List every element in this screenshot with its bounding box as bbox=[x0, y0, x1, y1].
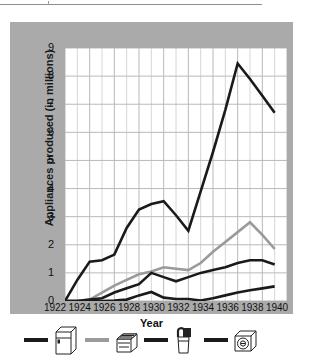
legend-line-swatch bbox=[24, 338, 48, 342]
chart-legend bbox=[10, 322, 300, 358]
y-tick-label: 4 bbox=[40, 183, 54, 194]
stove-icon bbox=[113, 326, 141, 354]
y-tick-label: 9 bbox=[40, 42, 54, 53]
refrigerator-icon bbox=[52, 324, 78, 356]
chart-figure-panel: Appliances produced (in millions) 987654… bbox=[10, 22, 293, 314]
top-divider-rule bbox=[0, 4, 262, 5]
legend-item-washer[interactable] bbox=[204, 322, 260, 358]
legend-item-refrigerator[interactable] bbox=[24, 322, 78, 358]
top-divider-tick bbox=[48, 1, 49, 5]
x-axis-tick-labels: 1922192419261928193019321934193619381940 bbox=[10, 303, 293, 317]
y-axis-tick-labels: 9876543210 bbox=[34, 44, 54, 296]
washer-icon bbox=[232, 327, 260, 353]
y-tick-label: 1 bbox=[40, 267, 54, 278]
legend-item-vacuum[interactable] bbox=[144, 322, 196, 358]
vacuum-icon bbox=[172, 325, 196, 355]
legend-item-stove[interactable] bbox=[85, 322, 141, 358]
minor-gridlines bbox=[77, 48, 274, 301]
line-chart-svg bbox=[65, 48, 287, 301]
y-tick-label: 7 bbox=[40, 98, 54, 109]
plot-area bbox=[65, 48, 287, 301]
legend-line-swatch bbox=[85, 338, 109, 342]
data-series-lines bbox=[65, 63, 275, 301]
y-tick-label: 5 bbox=[40, 154, 54, 165]
y-tick-label: 8 bbox=[40, 70, 54, 81]
legend-line-swatch bbox=[204, 338, 228, 342]
series-line-refrigerator bbox=[65, 63, 275, 301]
x-tick-label: 1940 bbox=[257, 303, 297, 313]
legend-line-swatch bbox=[144, 338, 168, 342]
y-tick-label: 3 bbox=[40, 211, 54, 222]
y-tick-label: 2 bbox=[40, 239, 54, 250]
y-tick-label: 6 bbox=[40, 126, 54, 137]
